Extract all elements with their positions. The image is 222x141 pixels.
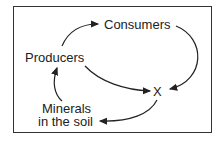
node-minerals-line2: in the soil xyxy=(38,115,93,129)
arrow-producers-to-x xyxy=(85,66,150,91)
node-consumers: Consumers xyxy=(104,18,170,32)
arrow-x-to-minerals xyxy=(100,100,157,121)
arrow-consumers-to-x xyxy=(170,26,198,89)
node-producers: Producers xyxy=(25,51,84,65)
arrow-producers-to-consumers xyxy=(62,24,98,46)
arrow-minerals-to-producers xyxy=(54,68,62,101)
node-x: X xyxy=(153,85,162,99)
